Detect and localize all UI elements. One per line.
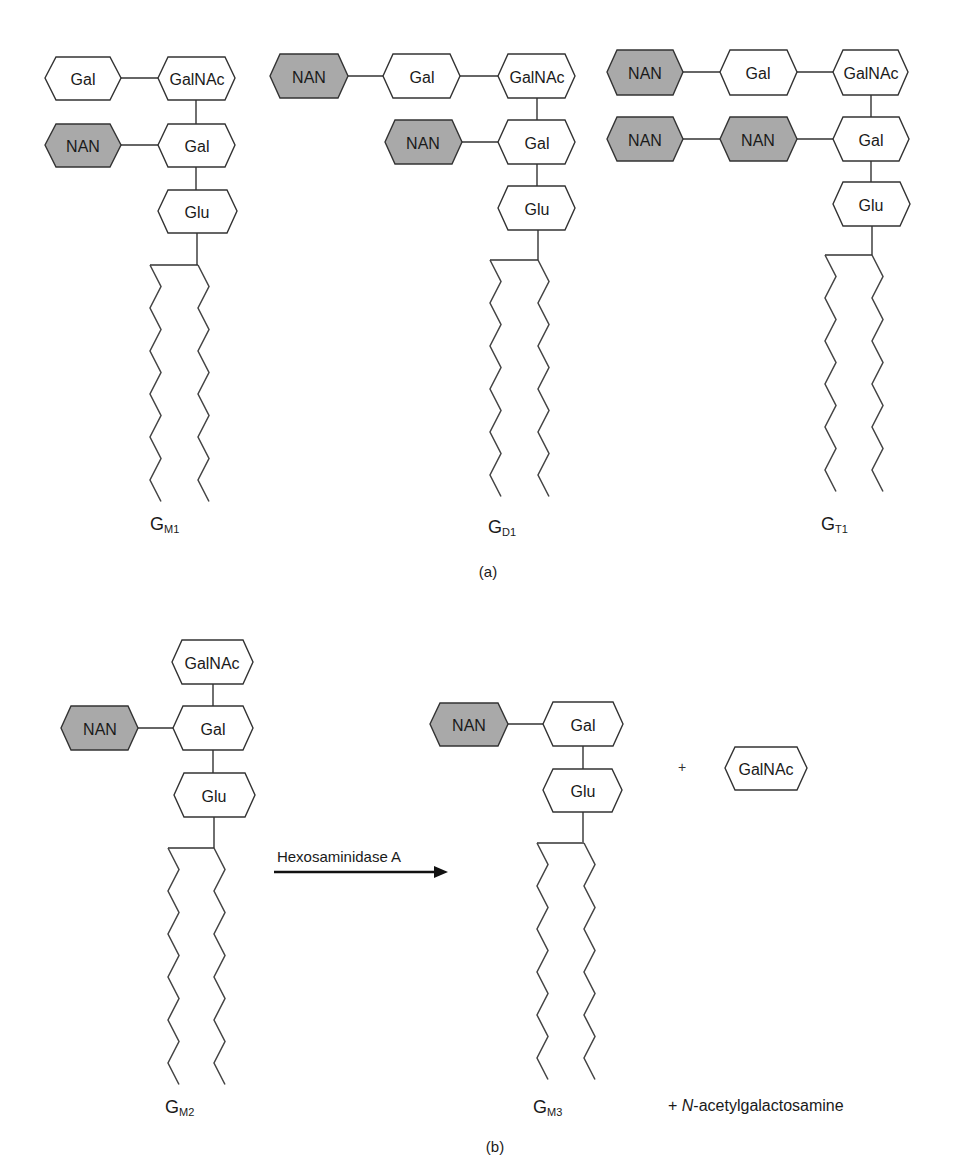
residue-label: Gal xyxy=(185,138,210,155)
residue-nan: NAN xyxy=(45,124,121,167)
residue-label: NAN xyxy=(83,721,117,738)
residue-gal-top: Gal xyxy=(720,50,797,95)
residue-label: Glu xyxy=(185,204,210,221)
panel-b: GalNAc NAN Gal Glu GM2 Hexosaminidase A xyxy=(61,640,844,1155)
residue-glu: Glu xyxy=(158,190,237,233)
molecule-name: GT1 xyxy=(821,514,848,535)
residue-gal: Gal xyxy=(543,702,623,746)
released-galnac: GalNAc xyxy=(725,747,807,790)
fatty-acid-chain xyxy=(825,255,836,492)
fatty-acid-chain xyxy=(537,843,548,1080)
residue-label: Glu xyxy=(571,783,596,800)
residue-label: Gal xyxy=(71,71,96,88)
residue-label: NAN xyxy=(292,69,326,86)
residue-glu: Glu xyxy=(498,186,575,230)
residue-label: Gal xyxy=(746,65,771,82)
molecule-gd1: NAN Gal GalNAc NAN Gal Glu xyxy=(270,54,575,538)
sphingosine-chain xyxy=(584,843,595,1080)
residue-gal: Gal xyxy=(158,124,235,167)
molecule-gm2: GalNAc NAN Gal Glu GM2 xyxy=(61,640,255,1118)
residue-label: NAN xyxy=(628,132,662,149)
panel-label-b: (b) xyxy=(486,1138,504,1155)
molecule-gt1: NAN Gal GalNAc NAN NAN Gal xyxy=(607,50,910,535)
sphingosine-chain xyxy=(538,260,549,497)
residue-glu: Glu xyxy=(543,769,622,812)
residue-label: NAN xyxy=(452,717,486,734)
sphingosine-chain xyxy=(198,265,209,502)
ceramide-tail xyxy=(490,260,549,497)
residue-label: GalNAc xyxy=(169,71,224,88)
fatty-acid-chain xyxy=(150,265,161,502)
residue-nan-outer: NAN xyxy=(607,117,683,161)
panel-label-a: (a) xyxy=(479,563,497,580)
residue-label: Gal xyxy=(525,135,550,152)
molecule-gm1: Gal GalNAc NAN Gal Glu GM1 xyxy=(45,57,237,535)
residue-label: NAN xyxy=(406,135,440,152)
arrow-head-icon xyxy=(434,866,448,878)
residue-galnac: GalNAc xyxy=(172,640,253,684)
residue-label: Glu xyxy=(525,201,550,218)
residue-gal: Gal xyxy=(173,706,253,750)
residue-label: Gal xyxy=(201,721,226,738)
residue-galnac: GalNAc xyxy=(158,57,235,100)
reaction-arrow: Hexosaminidase A xyxy=(274,848,448,878)
enzyme-label: Hexosaminidase A xyxy=(277,848,401,865)
residue-label: GalNAc xyxy=(509,69,564,86)
residue-nan-inner: NAN xyxy=(720,117,797,161)
molecule-name: GM1 xyxy=(150,514,179,535)
residue-label: Gal xyxy=(410,69,435,86)
residue-gal: Gal xyxy=(833,117,909,161)
residue-label: Gal xyxy=(571,717,596,734)
sphingosine-chain xyxy=(214,848,225,1085)
residue-label: GalNAc xyxy=(184,655,239,672)
molecule-name: GM3 xyxy=(533,1097,562,1118)
residue-galnac: GalNAc xyxy=(833,50,908,95)
residue-nan: NAN xyxy=(430,703,508,746)
molecule-name: GM2 xyxy=(165,1097,194,1118)
residue-glu: Glu xyxy=(174,773,255,817)
residue-label: GalNAc xyxy=(843,65,898,82)
residue-gal: Gal xyxy=(498,120,575,164)
sphingosine-chain xyxy=(872,255,883,492)
residue-label: NAN xyxy=(628,65,662,82)
residue-label: NAN xyxy=(66,138,100,155)
residue-label: Glu xyxy=(859,197,884,214)
molecule-name: GD1 xyxy=(488,517,516,538)
residue-galnac: GalNAc xyxy=(498,54,575,98)
fatty-acid-chain xyxy=(168,848,179,1085)
plus-sign: + xyxy=(678,759,686,775)
ceramide-tail xyxy=(825,255,883,492)
residue-nan: NAN xyxy=(385,120,462,164)
fatty-acid-chain xyxy=(490,260,501,497)
residue-label: Gal xyxy=(859,132,884,149)
residue-nan-top: NAN xyxy=(270,54,348,98)
panel-a: Gal GalNAc NAN Gal Glu GM1 xyxy=(45,50,910,580)
residue-nan-top: NAN xyxy=(607,50,683,95)
residue-nan: NAN xyxy=(61,706,138,750)
residue-gal-top: Gal xyxy=(45,57,121,100)
byproduct-label: + N-acetylgalactosamine xyxy=(668,1097,844,1114)
residue-label: NAN xyxy=(741,132,775,149)
ceramide-tail xyxy=(150,265,209,502)
molecule-gm3: NAN Gal Glu GM3 xyxy=(430,702,623,1118)
residue-label: GalNAc xyxy=(738,761,793,778)
residue-glu: Glu xyxy=(833,182,910,226)
residue-label: Glu xyxy=(202,788,227,805)
residue-gal-top: Gal xyxy=(383,54,460,98)
ceramide-tail xyxy=(537,843,595,1080)
ceramide-tail xyxy=(168,848,225,1085)
ganglioside-figure: Gal GalNAc NAN Gal Glu GM1 xyxy=(0,0,962,1167)
